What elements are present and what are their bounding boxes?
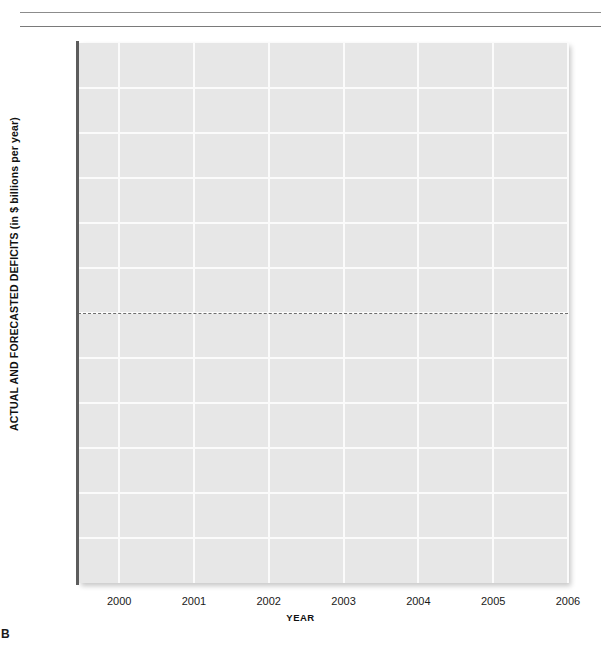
x-axis-tick-label: 2002 — [234, 595, 304, 607]
zero-reference-line — [78, 313, 568, 314]
x-axis-title: YEAR — [0, 612, 601, 623]
x-axis-tick-label: 2000 — [84, 595, 154, 607]
x-axis-tick-label: 2006 — [533, 595, 601, 607]
gridline-horizontal — [78, 87, 568, 89]
figure-panel-label: B — [1, 628, 10, 641]
gridline-horizontal — [78, 267, 568, 269]
gridline-horizontal — [78, 357, 568, 359]
y-axis-title: ACTUAL AND FORECASTED DEFICITS (in $ bil… — [8, 39, 20, 509]
y-axis-spine — [76, 41, 79, 585]
x-axis-tick-label: 2004 — [383, 595, 453, 607]
x-axis-tick-label: 2001 — [159, 595, 229, 607]
gridline-horizontal — [78, 447, 568, 449]
chart-plot-area — [78, 43, 568, 583]
header-rule-lower — [20, 26, 601, 27]
header-rule-upper — [20, 12, 601, 13]
gridline-horizontal — [78, 402, 568, 404]
x-axis-tick-label: 2003 — [309, 595, 379, 607]
gridline-horizontal — [78, 132, 568, 134]
gridline-horizontal — [78, 537, 568, 539]
gridline-horizontal — [78, 492, 568, 494]
gridline-horizontal — [78, 222, 568, 224]
x-axis-tick-label: 2005 — [458, 595, 528, 607]
gridline-horizontal — [78, 177, 568, 179]
